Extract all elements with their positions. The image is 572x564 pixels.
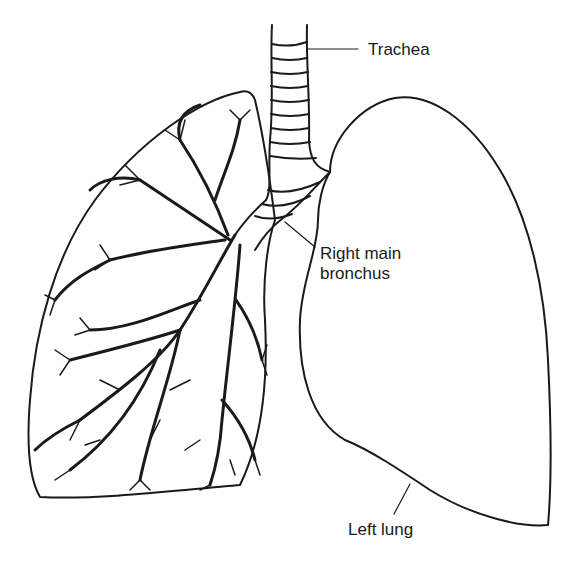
trachea-shape bbox=[266, 25, 330, 200]
label-left-lung: Left lung bbox=[348, 520, 413, 540]
label-right-main-bronchus-line2: bronchus bbox=[320, 264, 390, 284]
label-trachea: Trachea bbox=[368, 40, 430, 60]
label-right-main-bronchus-line1: Right main bbox=[320, 244, 401, 264]
bronchial-tree bbox=[35, 105, 262, 485]
lung-diagram bbox=[0, 0, 572, 564]
bronchus-leader-line bbox=[285, 222, 315, 247]
left-lung-leader-line bbox=[394, 484, 410, 514]
left-lung-outline bbox=[300, 97, 551, 525]
